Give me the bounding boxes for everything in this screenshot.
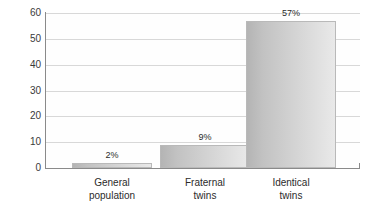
category-label-line2: population — [62, 189, 162, 202]
y-tick-label-40: 40 — [1, 60, 41, 70]
y-axis-line — [45, 12, 46, 169]
y-axis-tick-labels: 60 50 40 30 20 10 0 — [0, 0, 41, 215]
bar-fraternal-twins — [160, 145, 250, 168]
category-label-line1: Fraternal — [185, 177, 225, 188]
x-axis-end-tick — [359, 163, 360, 169]
y-tick-label-0: 0 — [1, 163, 41, 173]
category-label-line1: Identical — [272, 177, 309, 188]
bar-identical-twins — [246, 21, 336, 168]
bar-chart: 60 50 40 30 20 10 0 2% 9% 57% General po… — [0, 0, 376, 215]
category-label-line2: twins — [155, 189, 255, 202]
category-label-identical-twins: Identical twins — [241, 176, 341, 202]
y-tick-label-60: 60 — [1, 8, 41, 18]
category-label-line2: twins — [241, 189, 341, 202]
plot-area — [46, 13, 360, 168]
bar-value-general-population: 2% — [72, 150, 152, 160]
y-tick-label-20: 20 — [1, 111, 41, 121]
category-label-fraternal-twins: Fraternal twins — [155, 176, 255, 202]
category-label-line1: General — [94, 177, 130, 188]
x-axis-line — [45, 168, 360, 169]
y-tick-label-50: 50 — [1, 34, 41, 44]
bar-value-identical-twins: 57% — [246, 8, 336, 18]
y-tick-label-10: 10 — [1, 137, 41, 147]
bar-value-fraternal-twins: 9% — [160, 132, 250, 142]
y-tick-label-30: 30 — [1, 86, 41, 96]
category-label-general-population: General population — [62, 176, 162, 202]
